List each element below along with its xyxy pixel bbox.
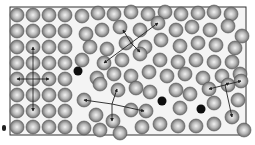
atom-left-grain (42, 88, 56, 102)
atom-left-grain (42, 56, 56, 70)
atom-right-grain (189, 53, 203, 67)
atom-right-grain (171, 119, 185, 133)
atom-right-grain (124, 5, 138, 19)
atom-right-grain (93, 123, 107, 137)
atom-left-grain (10, 120, 24, 134)
atom-left-grain (58, 56, 72, 70)
atom-left-grain (26, 24, 40, 38)
atom-right-grain (221, 78, 235, 92)
atom-right-grain (106, 114, 120, 128)
atom-right-grain (133, 47, 147, 61)
atom-left-grain (10, 8, 24, 22)
atom-right-grain (171, 55, 185, 69)
atom-right-grain (191, 36, 205, 50)
atom-right-grain (169, 83, 183, 97)
atom-right-grain (91, 6, 105, 20)
defect-atom (74, 67, 83, 76)
atom-left-grain (10, 104, 24, 118)
atom-left-grain (42, 40, 56, 54)
atom-left-grain (10, 40, 24, 54)
atom-left-grain (58, 24, 72, 38)
atom-right-grain (83, 40, 97, 54)
atom-right-grain (178, 67, 192, 81)
atom-left-grain (58, 88, 72, 102)
atom-left-grain (26, 8, 40, 22)
atom-right-grain (207, 117, 221, 131)
atom-left-grain (26, 120, 40, 134)
defect-atom (197, 105, 206, 114)
atom-right-grain (228, 41, 242, 55)
atom-right-grain (79, 27, 93, 41)
atom-right-grain (143, 85, 157, 99)
atomic-lattice-diagram (0, 0, 255, 145)
atom-right-grain (224, 7, 238, 21)
atom-right-grain (129, 81, 143, 95)
atom-right-grain (107, 7, 121, 21)
atom-left-grain (58, 40, 72, 54)
atom-right-grain (231, 93, 245, 107)
atom-right-grain (113, 20, 127, 34)
atom-right-grain (89, 108, 103, 122)
atom-right-grain (185, 20, 199, 34)
atom-right-grain (225, 55, 239, 69)
atom-right-grain (209, 38, 223, 52)
atom-left-grain (42, 104, 56, 118)
atom-right-grain (189, 119, 203, 133)
atom-right-grain (207, 55, 221, 69)
atom-right-grain (169, 23, 183, 37)
atom-left-grain (10, 24, 24, 38)
atom-right-grain (124, 103, 138, 117)
atom-right-grain (153, 53, 167, 67)
atom-right-grain (133, 23, 147, 37)
atom-right-grain (100, 42, 114, 56)
atom-right-grain (237, 123, 251, 137)
atom-right-grain (135, 120, 149, 134)
atom-left-grain (58, 104, 72, 118)
atom-right-grain (173, 39, 187, 53)
atom-right-grain (173, 101, 187, 115)
atom-right-grain (191, 6, 205, 20)
lattice-canvas (0, 0, 255, 145)
atom-left-grain (58, 8, 72, 22)
margin-mark (2, 125, 6, 131)
atom-right-grain (111, 83, 125, 97)
atom-left-grain (58, 72, 72, 86)
atom-right-grain (139, 104, 153, 118)
atom-left-grain (42, 120, 56, 134)
atom-right-grain (160, 69, 174, 83)
atom-right-grain (75, 9, 89, 23)
atom-right-grain (115, 53, 129, 67)
atom-right-grain (113, 126, 127, 140)
atom-right-grain (107, 67, 121, 81)
atom-right-grain (207, 5, 221, 19)
atom-right-grain (203, 23, 217, 37)
atom-right-grain (142, 65, 156, 79)
atom-right-grain (221, 19, 235, 33)
atom-left-grain (58, 120, 72, 134)
atom-right-grain (153, 117, 167, 131)
atom-right-grain (207, 96, 221, 110)
atom-right-grain (93, 77, 107, 91)
atom-right-grain (183, 87, 197, 101)
atom-right-grain (154, 33, 168, 47)
atom-left-grain (10, 88, 24, 102)
atom-left-grain (10, 56, 24, 70)
atom-right-grain (174, 7, 188, 21)
atom-right-grain (95, 23, 109, 37)
atom-left-grain (42, 24, 56, 38)
defect-atom (158, 97, 167, 106)
atom-right-grain (77, 121, 91, 135)
atom-left-grain (42, 8, 56, 22)
atom-right-grain (75, 53, 89, 67)
atom-right-grain (235, 29, 249, 43)
